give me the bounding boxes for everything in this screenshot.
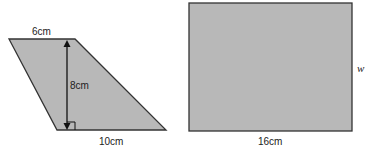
diagram-svg: 6cm 8cm 10cm 16cm w bbox=[0, 0, 371, 154]
rectangle-shape bbox=[189, 3, 352, 131]
rectangle-side-label: w bbox=[357, 62, 365, 74]
diagram-canvas: 6cm 8cm 10cm 16cm w bbox=[0, 0, 371, 154]
trapezoid-height-label: 8cm bbox=[70, 80, 89, 91]
trapezoid-top-label: 6cm bbox=[32, 26, 51, 37]
rectangle-bottom-label: 16cm bbox=[258, 136, 282, 147]
trapezoid-bottom-label: 10cm bbox=[99, 136, 123, 147]
